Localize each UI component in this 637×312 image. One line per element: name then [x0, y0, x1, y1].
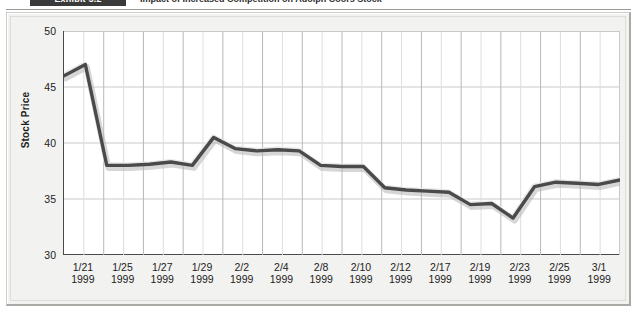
x-tick-year: 1999 [573, 273, 625, 285]
series-canvas [64, 31, 620, 255]
stock-price-line-chart: Stock Price 3035404550 1/2119991/2519991… [0, 0, 637, 312]
y-tick-30: 30 [30, 250, 56, 260]
y-tick-45: 45 [30, 82, 56, 92]
x-tick-3-1: 3/11999 [573, 261, 625, 285]
x-tick-date: 3/1 [573, 261, 625, 273]
y-tick-35: 35 [30, 194, 56, 204]
plot-area [63, 31, 619, 255]
y-tick-50: 50 [30, 26, 56, 36]
y-axis-title: Stock Price [18, 80, 34, 160]
exhibit-page: Exhibit 5.2 Impact of Increased Competit… [0, 0, 637, 312]
y-tick-40: 40 [30, 138, 56, 148]
